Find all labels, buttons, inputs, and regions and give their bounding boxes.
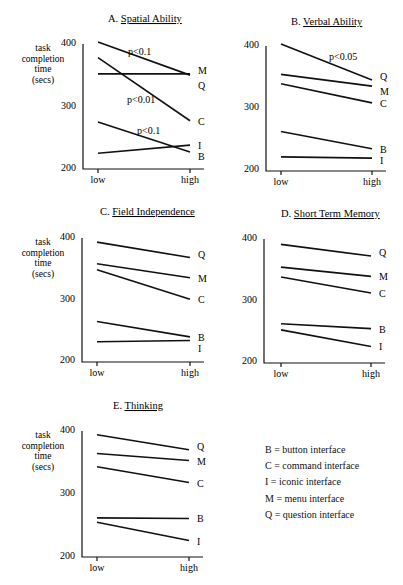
panel-title: E. Thinking bbox=[113, 400, 164, 411]
series-label-b: B bbox=[198, 151, 205, 162]
y-axis-label: completion bbox=[22, 54, 65, 64]
x-tick-label: high bbox=[363, 176, 381, 187]
series-line-b bbox=[281, 131, 372, 148]
series-line-m bbox=[97, 454, 189, 461]
series-label-i: I bbox=[197, 536, 200, 547]
x-tick-label: low bbox=[90, 367, 106, 378]
series-line-i bbox=[98, 145, 190, 153]
y-tick-label: 400 bbox=[60, 424, 75, 435]
series-line-b bbox=[97, 518, 189, 519]
series-label-q: Q bbox=[198, 249, 206, 260]
legend-item-command: C = command interface bbox=[265, 458, 359, 474]
series-line-q bbox=[281, 244, 371, 256]
series-label-c: C bbox=[380, 98, 387, 109]
y-axis-label: time bbox=[35, 64, 52, 74]
series-line-b bbox=[281, 324, 371, 329]
legend-item-button: B = button interface bbox=[265, 442, 359, 458]
series-line-m bbox=[97, 264, 190, 278]
series-label-m: M bbox=[198, 65, 207, 76]
y-tick-label: 200 bbox=[60, 354, 75, 365]
series-label-q: Q bbox=[197, 441, 205, 452]
y-tick-label: 200 bbox=[61, 162, 76, 173]
y-tick-label: 200 bbox=[244, 163, 259, 174]
y-tick-label: 300 bbox=[244, 101, 259, 112]
series-line-m bbox=[281, 74, 372, 86]
series-label-m: M bbox=[379, 271, 388, 282]
panel-title: A. Spatial Ability bbox=[108, 13, 183, 24]
series-line-c bbox=[281, 277, 371, 293]
series-label-i: I bbox=[379, 341, 382, 352]
x-tick-label: low bbox=[274, 368, 290, 379]
series-label-b: B bbox=[379, 324, 386, 335]
y-axis-label: completion bbox=[22, 248, 65, 258]
y-tick-label: 300 bbox=[242, 294, 257, 305]
x-tick-label: high bbox=[181, 367, 199, 378]
series-label-b: B bbox=[198, 332, 205, 343]
legend-item-menu: M = menu interface bbox=[265, 491, 359, 507]
y-axis-label: (secs) bbox=[32, 75, 54, 86]
panel-title: B. Verbal Ability bbox=[291, 16, 363, 27]
series-label-q: Q bbox=[198, 80, 206, 91]
y-tick-label: 200 bbox=[60, 550, 75, 561]
y-tick-label: 400 bbox=[242, 232, 257, 243]
series-line-c bbox=[98, 58, 190, 121]
axes bbox=[264, 239, 385, 363]
y-tick-label: 300 bbox=[61, 100, 76, 111]
x-tick-label: high bbox=[362, 368, 380, 379]
legend-item-question: Q = question interface bbox=[265, 507, 359, 523]
p-value-annotation: p<0.1 bbox=[128, 46, 151, 57]
series-line-c bbox=[97, 270, 190, 300]
series-line-i bbox=[97, 522, 189, 540]
series-line-q bbox=[281, 44, 372, 80]
legend-item-iconic: I = iconic interface bbox=[265, 474, 359, 490]
p-value-annotation: p<0.05 bbox=[329, 51, 357, 62]
y-tick-label: 400 bbox=[61, 37, 76, 48]
y-axis-label: task bbox=[35, 43, 51, 53]
y-tick-label: 400 bbox=[244, 39, 259, 50]
series-label-i: I bbox=[198, 343, 201, 354]
panel-b: B. Verbal Abilitylowhigh400300200QMCBIp<… bbox=[244, 16, 389, 187]
panel-c: C. Field Independencelowhigh400300200tas… bbox=[22, 206, 207, 378]
y-tick-label: 200 bbox=[242, 355, 257, 366]
series-label-c: C bbox=[379, 288, 386, 299]
series-label-i: I bbox=[198, 140, 201, 151]
p-value-annotation: p<0.01 bbox=[127, 94, 155, 105]
y-axis-label: time bbox=[35, 258, 52, 268]
series-line-i bbox=[97, 341, 190, 342]
axes bbox=[266, 46, 386, 171]
x-tick-label: high bbox=[180, 562, 198, 573]
x-tick-label: low bbox=[274, 176, 290, 187]
series-line-i bbox=[281, 330, 371, 347]
y-axis-label: time bbox=[35, 451, 52, 461]
y-tick-label: 300 bbox=[60, 487, 75, 498]
y-axis-label: (secs) bbox=[32, 269, 54, 280]
series-line-i bbox=[281, 157, 372, 158]
series-line-c bbox=[97, 467, 189, 483]
y-axis-label: (secs) bbox=[32, 462, 54, 473]
panel-a: A. Spatial Abilitylowhigh400300200taskco… bbox=[22, 13, 207, 185]
series-label-q: Q bbox=[380, 71, 388, 82]
series-label-m: M bbox=[380, 86, 389, 97]
y-axis-label: task bbox=[35, 430, 51, 440]
panel-title: D. Short Term Memory bbox=[281, 208, 381, 219]
series-line-b bbox=[97, 321, 190, 336]
panel-d: D. Short Term Memorylowhigh400300200QMCB… bbox=[242, 208, 388, 379]
series-label-i: I bbox=[380, 155, 383, 166]
x-tick-label: high bbox=[181, 174, 199, 185]
panel-e: E. Thinkinglowhigh400300200taskcompletio… bbox=[22, 400, 206, 573]
series-label-b: B bbox=[197, 513, 204, 524]
panel-title: C. Field Independence bbox=[100, 206, 195, 217]
y-axis-label: task bbox=[35, 237, 51, 247]
series-label-c: C bbox=[197, 478, 204, 489]
series-line-q bbox=[97, 435, 189, 450]
x-tick-label: low bbox=[90, 562, 106, 573]
series-line-q bbox=[97, 242, 190, 257]
y-tick-label: 400 bbox=[60, 231, 75, 242]
series-label-c: C bbox=[198, 116, 205, 127]
series-label-q: Q bbox=[379, 247, 387, 258]
series-label-b: B bbox=[380, 144, 387, 155]
y-tick-label: 300 bbox=[60, 293, 75, 304]
x-tick-label: low bbox=[91, 174, 107, 185]
series-label-c: C bbox=[198, 294, 205, 305]
series-label-m: M bbox=[198, 273, 207, 284]
